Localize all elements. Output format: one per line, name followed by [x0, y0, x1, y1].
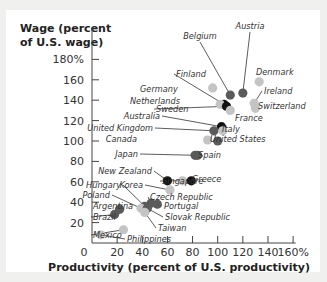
x-tick-label: 80 [186, 246, 200, 259]
data-point-austria [238, 88, 247, 97]
y-tick-label: 60 [70, 176, 84, 189]
data-point-france [226, 106, 235, 115]
point-labels: AustriaBelgiumDenmarkFinlandGermanyIrela… [82, 21, 306, 244]
chart-root: Wage (percentof U.S. wage) 2040608010012… [0, 0, 327, 282]
point-label: United Kingdom [87, 123, 153, 133]
point-label: France [235, 113, 263, 123]
x-axis-title: Productivity (percent of U.S. productivi… [48, 261, 310, 274]
y-axis-title-line: of U.S. wage) [20, 36, 103, 49]
y-axis-title: Wage (percentof U.S. wage) [20, 22, 111, 49]
point-label: Brazil [93, 212, 117, 222]
point-label: Korea [119, 180, 143, 190]
point-label: Austria [235, 21, 265, 31]
data-point-belgium [226, 91, 235, 100]
point-label: Portugal [164, 201, 199, 211]
point-label: Finland [176, 69, 207, 79]
x-tick-label: 140 [257, 246, 278, 259]
point-label: Taiwan [158, 223, 186, 233]
point-label: Poland [82, 190, 110, 200]
y-tick-label: 180% [53, 53, 84, 66]
data-point-germany [208, 83, 217, 92]
point-label: Mexico [93, 230, 122, 240]
x-tick-label: 60 [160, 246, 174, 259]
data-point-denmark [255, 77, 264, 86]
y-tick-label: 100 [63, 135, 84, 148]
x-tick-label: 100 [207, 246, 228, 259]
y-tick-label: 120 [63, 115, 84, 128]
point-label: Ireland [264, 86, 293, 96]
point-label: New Zealand [98, 166, 153, 176]
data-point-taiwan [140, 208, 149, 217]
y-tick-label: 20 [70, 217, 84, 230]
point-label: Argentina [92, 201, 133, 211]
scatter-chart: Wage (percentof U.S. wage) 2040608010012… [0, 0, 327, 282]
point-label: Greece [192, 174, 221, 184]
point-label: Germany [140, 84, 178, 94]
point-label: Sweden [156, 104, 188, 114]
point-label: Australia [123, 111, 160, 121]
point-label: Belgium [183, 31, 217, 41]
y-tick-label: 140 [63, 94, 84, 107]
y-tick-label: 80 [70, 155, 84, 168]
y-axis-title-line: Wage (percent [20, 22, 111, 35]
point-label: Canada [106, 134, 137, 144]
point-label: Italy [222, 124, 240, 134]
point-label: United States [210, 134, 266, 144]
x-tick-label: 40 [135, 246, 149, 259]
point-label: Spain [198, 150, 221, 160]
point-label: Philippines [127, 234, 172, 244]
point-label: Switzerland [258, 101, 307, 111]
point-label: Hungary [86, 180, 121, 190]
y-tick-label: 160 [63, 74, 84, 87]
point-label: Slovak Republic [165, 212, 231, 222]
x-tick-label: 160% [277, 246, 308, 259]
x-tick-label: 0 [81, 246, 88, 259]
x-tick-label: 20 [110, 246, 124, 259]
point-label: Japan [113, 149, 138, 159]
x-tick-label: 120 [232, 246, 253, 259]
point-label: Denmark [256, 67, 295, 77]
